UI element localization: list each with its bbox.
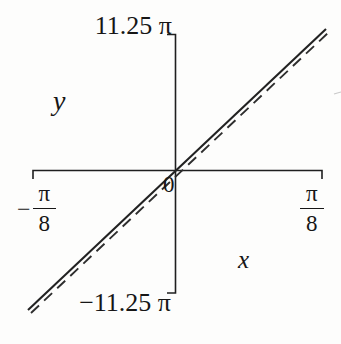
y-axis-line (167, 35, 176, 294)
y-axis-max-tick-label: 11.25 π (95, 13, 172, 39)
x-axis-min-tick-label: − π 8 (17, 182, 56, 235)
origin-label: 0 (163, 173, 175, 196)
fraction-numerator: π (33, 182, 57, 208)
y-axis-min-tick-label: −11.25 π (79, 290, 171, 316)
scan-artifact-mark (334, 92, 341, 94)
fraction-denominator: 8 (33, 208, 57, 235)
fraction-numerator: π (300, 182, 324, 208)
plot-figure: 11.25 π −11.25 π y x 0 − π 8 π 8 (0, 0, 341, 344)
minus-sign: − (17, 197, 31, 221)
y-axis-title: y (53, 87, 65, 115)
fraction-denominator: 8 (300, 208, 324, 235)
fraction-left: π 8 (33, 182, 57, 235)
dashed-curve (31, 32, 329, 313)
x-axis-max-tick-label: π 8 (300, 182, 324, 235)
solid-curve (28, 29, 326, 310)
x-axis-title: x (238, 247, 249, 272)
fraction-right: π 8 (300, 182, 324, 235)
